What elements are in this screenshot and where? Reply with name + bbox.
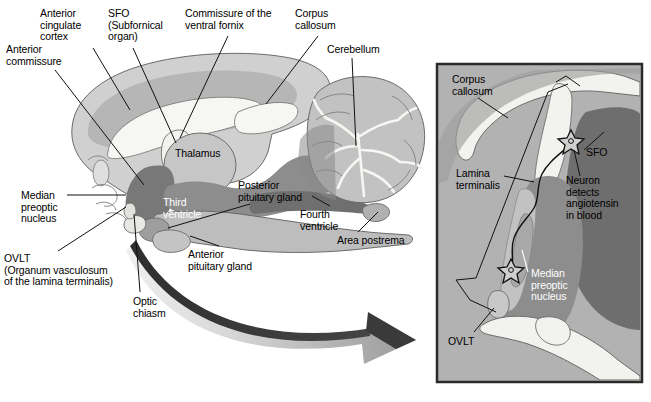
label-commissure-ventral-fornix: Commissure of the ventral fornix [185, 8, 271, 31]
label-anterior-commissure: Anterior commissure [6, 44, 62, 67]
label-sfo: SFO (Subfornical organ) [108, 8, 163, 43]
label-fourth-ventricle: Fourth ventricle [300, 209, 338, 232]
inset-ovlt-shape [488, 290, 509, 318]
label-area-postrema: Area postrema [337, 235, 405, 247]
anterior-pituitary-shape [153, 230, 191, 253]
label-corpus-callosum-inset: Corpus callosum [452, 74, 493, 97]
label-third-ventricle: Third ventricle [163, 197, 201, 220]
label-ovlt-inset: OVLT [448, 336, 474, 348]
label-thalamus: Thalamus [175, 148, 220, 160]
label-sfo-inset: SFO [586, 147, 607, 159]
arrow-body [126, 242, 416, 364]
label-anterior-cingulate-cortex: Anterior cingulate cortex [40, 8, 81, 43]
main-brain-group [72, 53, 425, 252]
label-corpus-callosum-main: Corpus callosum [295, 8, 336, 31]
anatomical-figure: Anterior cingulate cortex SFO (Subfornic… [0, 0, 651, 402]
label-posterior-pituitary-gland: Posterior pituitary gland [238, 180, 302, 203]
leader-ovlt [58, 207, 126, 251]
brain-diagram-svg [0, 0, 651, 402]
label-median-preoptic-nucleus-inset: Median preoptic nucleus [531, 268, 568, 303]
anterior-commissure-shape [93, 160, 109, 186]
label-cerebellum: Cerebellum [327, 44, 380, 56]
label-ovlt-main: OVLT (Organum vasculosum of the lamina t… [4, 253, 113, 288]
label-lamina-terminalis: Lamina terminalis [456, 168, 500, 191]
label-median-preoptic-nucleus: Median preoptic nucleus [21, 190, 58, 225]
label-anterior-pituitary-gland: Anterior pituitary gland [188, 249, 252, 272]
label-optic-chiasm: Optic chiasm [133, 296, 166, 319]
transition-arrow [126, 240, 416, 364]
label-neuron-detects-angiotensin: Neuron detects angiotensin in blood [566, 175, 619, 221]
area-postrema-shape [363, 204, 390, 222]
